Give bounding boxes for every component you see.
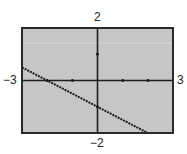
y-tick (96, 53, 99, 55)
ymin-label: −2 (90, 137, 104, 149)
ymax-label: 2 (94, 11, 101, 23)
xmin-label: −3 (3, 74, 17, 86)
xmax-label: 3 (177, 74, 184, 86)
x-tick (71, 79, 73, 82)
x-tick (147, 79, 149, 82)
x-tick (122, 79, 124, 82)
